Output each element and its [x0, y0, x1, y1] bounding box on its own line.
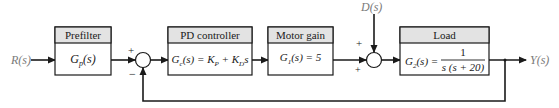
prefilter-expr: Gp(s): [70, 52, 95, 68]
load-title: Load: [433, 29, 456, 41]
sum1-minus-sign: −: [129, 67, 136, 81]
motor-gain-block: Motor gain G1(s) = 5: [268, 27, 333, 75]
sum2-top-plus-sign: +: [356, 37, 362, 49]
block-diagram: R(s) Prefilter Gp(s) + − PD controller G…: [0, 0, 559, 108]
prefilter-title: Prefilter: [65, 29, 101, 41]
summing-junction-1: + −: [128, 44, 151, 81]
sum1-plus-sign: +: [128, 44, 134, 56]
load-block: Load G2(s) = 1 s (s + 20): [400, 27, 489, 75]
output-signal-label: Y(s): [530, 53, 549, 67]
motor-gain-title: Motor gain: [276, 29, 326, 41]
disturbance-signal-label: D(s): [360, 0, 382, 14]
pd-controller-title: PD controller: [180, 29, 240, 41]
prefilter-block: Prefilter Gp(s): [55, 27, 111, 75]
input-signal-label: R(s): [10, 53, 31, 67]
summing-junction-2: + +: [355, 37, 382, 75]
load-numerator: 1: [460, 46, 466, 58]
load-denominator: s (s + 20): [442, 61, 485, 74]
sum2-bottom-plus-sign: +: [355, 64, 361, 75]
pd-controller-block: PD controller Gc(s) = KP + KDs: [168, 27, 252, 75]
